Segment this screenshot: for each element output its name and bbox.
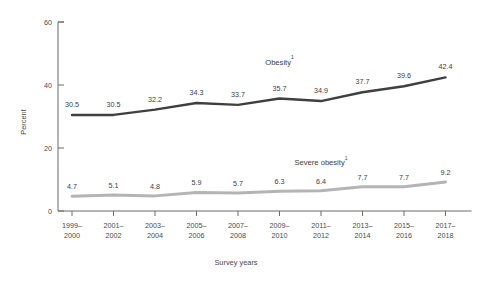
data-point-label: 42.4 (439, 62, 453, 71)
data-point-label: 6.3 (275, 177, 285, 186)
x-tick-label: 2001– (104, 221, 124, 230)
x-tick-label: 2013– (353, 221, 373, 230)
data-point-label: 4.8 (150, 182, 160, 191)
data-labels-group: 30.530.532.234.333.735.734.937.739.642.4… (65, 62, 453, 191)
x-tick-label: 2003– (145, 221, 165, 230)
x-tick-label: 2006 (189, 231, 205, 240)
chart-container: 0204060 1999–20002001–20022003–20042005–… (0, 0, 492, 281)
data-point-label: 35.7 (273, 84, 287, 93)
x-tick-label: 2002 (106, 231, 122, 240)
x-tick-label: 2004 (147, 231, 163, 240)
data-point-label: 5.1 (109, 181, 119, 190)
x-tick-label: 2017– (436, 221, 456, 230)
x-tick-label: 2007– (228, 221, 248, 230)
x-axis-title: Survey years (214, 258, 257, 267)
x-axis: 1999–20002001–20022003–20042005–20062007… (58, 211, 472, 240)
data-point-label: 30.5 (65, 100, 79, 109)
series-line-severe-obesity (72, 182, 446, 196)
series-line-obesity (72, 77, 446, 114)
x-tick-label: 2005– (187, 221, 207, 230)
y-tick-label: 40 (44, 81, 52, 90)
data-point-label: 7.7 (399, 173, 409, 182)
x-tick-label: 2010 (272, 231, 288, 240)
x-tick-label: 2015– (394, 221, 414, 230)
y-axis: 0204060 (44, 18, 64, 216)
x-tick-label: 2018 (438, 231, 454, 240)
y-tick-label: 20 (44, 144, 52, 153)
data-point-label: 30.5 (107, 100, 121, 109)
data-point-label: 32.2 (148, 95, 162, 104)
series-annotation: Obesity1 (265, 54, 294, 66)
x-tick-label: 2012 (313, 231, 329, 240)
x-tick-label: 1999– (62, 221, 82, 230)
y-tick-label: 0 (48, 207, 52, 216)
data-point-label: 33.7 (231, 90, 245, 99)
x-tick-label: 2009– (270, 221, 290, 230)
data-point-label: 6.4 (316, 177, 326, 186)
data-point-label: 5.7 (233, 179, 243, 188)
line-chart: 0204060 1999–20002001–20022003–20042005–… (0, 0, 492, 281)
series-annotations-group: Obesity1Severe obesity1 (265, 54, 347, 167)
data-point-label: 7.7 (358, 173, 368, 182)
data-point-label: 34.9 (314, 86, 328, 95)
data-series-group (72, 77, 446, 196)
x-tick-label: 2014 (355, 231, 371, 240)
x-tick-label: 2000 (64, 231, 80, 240)
data-point-label: 39.6 (397, 71, 411, 80)
data-point-label: 34.3 (190, 88, 204, 97)
data-point-label: 5.9 (192, 178, 202, 187)
x-tick-label: 2008 (230, 231, 246, 240)
data-point-label: 4.7 (67, 182, 77, 191)
x-tick-label: 2016 (396, 231, 412, 240)
data-point-label: 9.2 (441, 168, 451, 177)
x-tick-label: 2011– (311, 221, 330, 230)
y-axis-title: Percent (19, 109, 28, 134)
y-tick-label: 60 (44, 18, 52, 27)
data-point-label: 37.7 (356, 77, 370, 86)
series-annotation: Severe obesity1 (294, 155, 347, 167)
